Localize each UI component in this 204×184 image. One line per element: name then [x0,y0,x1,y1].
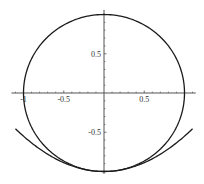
y-tick-label-0.5: 0.5 [91,50,101,59]
x-tick-label-neg0.5: -0.5 [57,95,70,104]
x-tick-label-0.5: 0.5 [139,95,149,104]
y-tick-label-neg0.5: -0.5 [88,128,101,137]
plot-canvas: -1 -0.5 0.5 0.5 -0.5 [0,0,204,184]
